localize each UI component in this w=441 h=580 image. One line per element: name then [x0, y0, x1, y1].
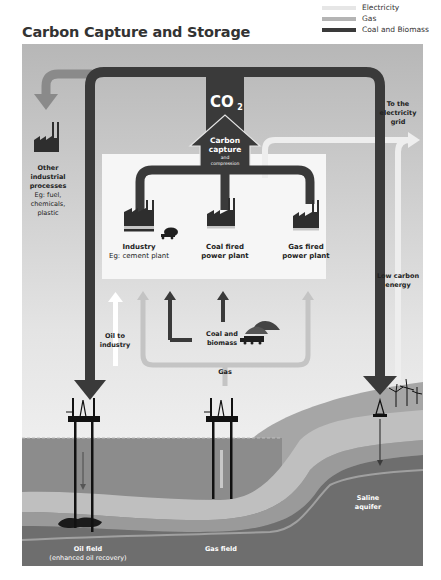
- capture-line3: and: [221, 155, 230, 160]
- electricity-grid-line3: grid: [391, 118, 406, 126]
- plant-gas-line1: Gas fired: [288, 243, 323, 251]
- other-industrial-line1: Other: [38, 164, 60, 172]
- plant-industry-example: Eg: cement plant: [109, 252, 169, 260]
- gas-extraction-flow: [220, 450, 223, 488]
- low-carbon-line1: Low carbon: [377, 272, 419, 280]
- saline-aquifer-line1: Saline: [357, 494, 380, 502]
- other-industrial-line3: processes: [30, 182, 67, 190]
- electricity-grid-line1: To the: [387, 100, 410, 108]
- capture-line4: compression: [211, 161, 240, 166]
- plant-coal-line2: power plant: [201, 252, 249, 260]
- ccs-diagram: CO 2 Carbon capture and compression Indu…: [0, 0, 441, 580]
- low-carbon-line2: energy: [385, 281, 411, 289]
- saline-aquifer-line2: aquifer: [355, 503, 382, 511]
- oil-deposit: [58, 518, 102, 528]
- capture-line1: Carbon: [210, 136, 240, 145]
- electricity-grid-line2: electricity: [380, 109, 418, 117]
- plant-coal-line1: Coal fired: [206, 243, 244, 251]
- coal-biomass-line2: biomass: [207, 339, 237, 347]
- coal-biomass-line1: Coal and: [206, 330, 238, 338]
- plant-gas-line2: power plant: [282, 252, 330, 260]
- other-industrial-line2: industrial: [30, 173, 65, 181]
- other-industrial-line5: chemicals,: [31, 200, 66, 208]
- co2-subscript: 2: [237, 103, 243, 112]
- oil-to-industry-line2: industry: [100, 341, 131, 349]
- other-industrial-line6: plastic: [37, 209, 59, 217]
- other-industrial-line4: Eg: fuel,: [35, 191, 62, 199]
- capture-line2: capture: [209, 145, 242, 154]
- gas-label: Gas: [218, 368, 232, 376]
- oil-to-industry-line1: Oil to: [105, 332, 125, 340]
- oil-field-line2: (enhanced oil recovery): [49, 554, 126, 562]
- co2-label: CO: [210, 93, 234, 111]
- plant-industry-name: Industry: [122, 243, 156, 251]
- gas-field-line1: Gas field: [205, 545, 237, 553]
- oil-field-line1: Oil field: [74, 545, 103, 553]
